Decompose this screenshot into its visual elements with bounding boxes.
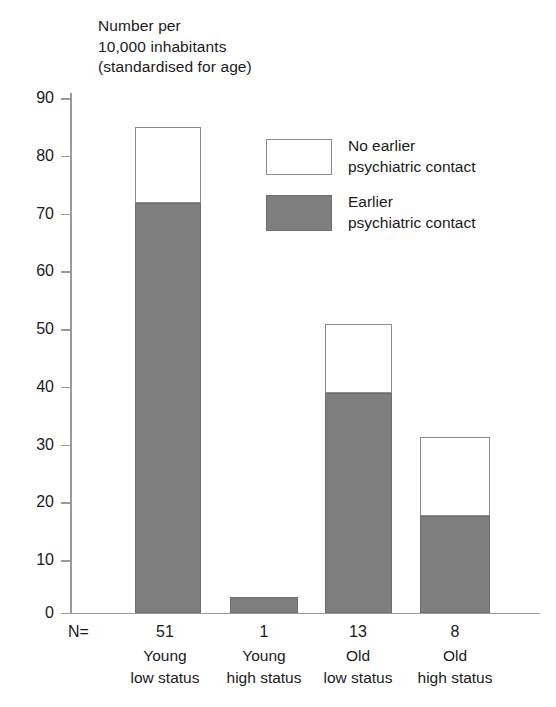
- y-tick-30: [61, 445, 70, 447]
- bar-segment-no-earlier-contact: [325, 324, 392, 393]
- legend-item-earlier-contact[interactable]: Earlier psychiatric contact: [266, 192, 546, 248]
- bar-young-high-status[interactable]: [230, 597, 298, 613]
- y-tick-20: [61, 502, 70, 504]
- y-tick-label-40: 40: [8, 379, 54, 395]
- n-prefix-label: N=: [68, 624, 89, 640]
- legend-swatch-white-icon: [266, 139, 332, 175]
- y-tick-label-20: 20: [8, 494, 54, 510]
- y-tick-0: [61, 613, 70, 615]
- y-tick-label-10: 10: [8, 552, 54, 568]
- y-tick-label-90: 90: [8, 90, 54, 106]
- bar-old-low-status[interactable]: [325, 324, 392, 613]
- y-tick-70: [61, 214, 70, 216]
- bar-segment-earlier-contact: [135, 203, 201, 613]
- legend-swatch-gray-icon: [266, 195, 332, 231]
- legend-label-earlier-contact: Earlier psychiatric contact: [348, 192, 476, 233]
- y-tick-60: [61, 271, 70, 273]
- chart-figure: Number per 10,000 inhabitants (standardi…: [0, 0, 556, 707]
- x-label-n-value: 8: [395, 622, 515, 642]
- chart-legend: No earlier psychiatric contact Earlier p…: [266, 136, 546, 248]
- y-axis-line: [70, 93, 72, 614]
- y-tick-80: [61, 156, 70, 158]
- x-label-old-high-status: 8 Old high status: [395, 622, 515, 688]
- x-label-category: Old high status: [395, 645, 515, 688]
- legend-item-no-earlier-contact[interactable]: No earlier psychiatric contact: [266, 136, 546, 192]
- y-tick-40: [61, 387, 70, 389]
- bar-segment-no-earlier-contact: [135, 127, 201, 202]
- y-tick-label-70: 70: [8, 206, 54, 222]
- y-tick-label-80: 80: [8, 148, 54, 164]
- y-tick-10: [61, 560, 70, 562]
- y-tick-label-0: 0: [8, 605, 54, 621]
- y-tick-label-30: 30: [8, 437, 54, 453]
- legend-label-no-earlier-contact: No earlier psychiatric contact: [348, 136, 476, 177]
- bar-segment-no-earlier-contact: [420, 437, 490, 516]
- y-tick-label-60: 60: [8, 263, 54, 279]
- y-tick-90: [61, 98, 70, 100]
- bar-old-high-status[interactable]: [420, 437, 490, 613]
- y-tick-50: [61, 329, 70, 331]
- y-tick-label-50: 50: [8, 321, 54, 337]
- bar-segment-earlier-contact: [420, 516, 490, 613]
- y-axis-title: Number per 10,000 inhabitants (standardi…: [98, 16, 398, 78]
- bar-young-low-status[interactable]: [135, 127, 201, 613]
- bar-segment-earlier-contact: [230, 597, 298, 613]
- bar-segment-earlier-contact: [325, 393, 392, 613]
